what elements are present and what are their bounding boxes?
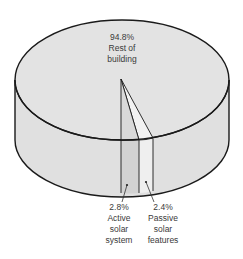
passive-solar-label: 2.4% Passive solar features bbox=[142, 202, 184, 246]
active-line1: Active bbox=[100, 213, 138, 224]
active-line3: system bbox=[100, 235, 138, 246]
active-line2: solar bbox=[100, 224, 138, 235]
rest-pct: 94.8% bbox=[96, 32, 148, 43]
active-slice-side bbox=[121, 140, 139, 194]
passive-slice-side bbox=[139, 139, 153, 193]
passive-line2: solar bbox=[142, 224, 184, 235]
rest-line1: Rest of bbox=[96, 43, 148, 54]
rest-of-building-label: 94.8% Rest of building bbox=[96, 32, 148, 65]
passive-line3: features bbox=[142, 235, 184, 246]
passive-pct: 2.4% bbox=[142, 202, 184, 213]
passive-line1: Passive bbox=[142, 213, 184, 224]
rest-line2: building bbox=[96, 54, 148, 65]
active-solar-label: 2.8% Active solar system bbox=[100, 202, 138, 246]
active-pct: 2.8% bbox=[100, 202, 138, 213]
